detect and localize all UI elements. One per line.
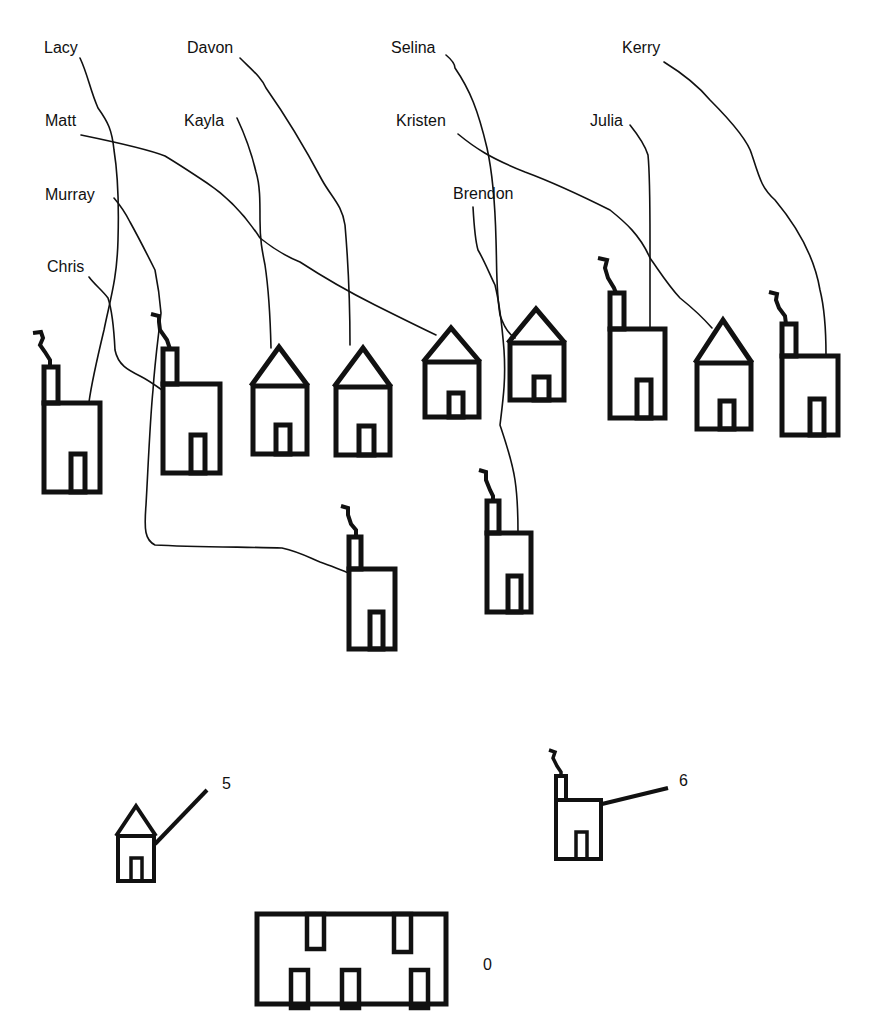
buildings [33, 258, 838, 1008]
connector-chris [89, 277, 162, 390]
legend-factory-icon [549, 750, 668, 859]
factory-icon [33, 332, 100, 492]
house-icon [423, 328, 480, 417]
person-label-kristen: Kristen [396, 113, 446, 129]
house-icon [508, 309, 565, 400]
legend-factory-value: 6 [679, 773, 688, 789]
person-label-matt: Matt [45, 113, 76, 129]
legend-apartment-icon [257, 914, 446, 1008]
connector-kerry [664, 62, 826, 355]
house-icon [695, 320, 752, 429]
connector-lines [80, 55, 826, 573]
connector-davon [240, 58, 350, 345]
person-label-julia: Julia [590, 113, 623, 129]
diagram-canvas [0, 0, 871, 1034]
factory-icon [479, 470, 531, 612]
person-label-kerry: Kerry [622, 40, 660, 56]
house-icon [251, 347, 308, 454]
factory-icon [598, 258, 665, 418]
legend-house-icon [116, 790, 207, 881]
legend-house-value: 5 [222, 776, 231, 792]
person-label-selina: Selina [391, 40, 435, 56]
connector-matt [81, 135, 436, 335]
connector-lacy [80, 58, 118, 402]
connector-julia [630, 125, 650, 328]
house-icon [334, 348, 391, 455]
person-label-lacy: Lacy [44, 40, 78, 56]
person-label-chris: Chris [47, 259, 84, 275]
person-label-kayla: Kayla [184, 113, 224, 129]
connector-murray [114, 198, 349, 573]
factory-icon [341, 506, 395, 649]
legend-apartment-value: 0 [483, 957, 492, 973]
factory-icon [151, 314, 220, 473]
factory-icon [769, 292, 838, 435]
person-label-brendon: Brendon [453, 186, 514, 202]
connector-kayla [237, 118, 271, 348]
person-label-davon: Davon [187, 40, 233, 56]
person-label-murray: Murray [45, 187, 95, 203]
